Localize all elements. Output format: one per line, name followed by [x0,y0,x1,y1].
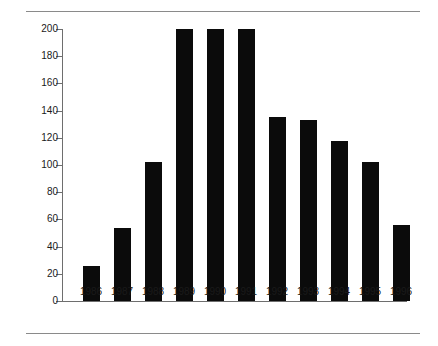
bottom-divider-rule [26,333,420,334]
bar [331,141,348,301]
bar [145,162,162,301]
y-axis-tick: 0 [62,301,68,302]
y-axis-tick-label: 80 [47,185,58,198]
y-axis-tick: 120 [62,138,68,139]
x-axis-line [62,301,407,302]
bar-chart-figure: 020406080100120140160180200 198619871988… [0,0,438,346]
bar [269,117,286,301]
y-axis-tick: 140 [62,111,68,112]
y-axis-tick-label: 40 [47,240,58,253]
bar [207,29,224,301]
y-axis-tick-label: 140 [41,104,58,117]
y-axis-tick: 180 [62,56,68,57]
y-axis-tick: 100 [62,165,68,166]
y-axis-tick: 200 [62,29,68,30]
y-axis-tick-label: 0 [52,294,58,307]
plot-area: 020406080100120140160180200 [62,29,407,301]
y-axis-tick: 80 [62,192,68,193]
bar [238,29,255,301]
y-axis-tick: 60 [62,219,68,220]
y-axis-tick-label: 20 [47,267,58,280]
y-axis-tick-label: 60 [47,212,58,225]
y-axis-tick: 40 [62,247,68,248]
y-axis-tick-label: 180 [41,49,58,62]
y-axis-tick: 20 [62,274,68,275]
x-axis-label: 1996 [381,286,421,298]
y-axis-tick-label: 200 [41,22,58,35]
y-axis-tick-label: 120 [41,131,58,144]
y-axis-tick-label: 100 [41,158,58,171]
bar [176,29,193,301]
top-divider-rule [26,11,420,12]
y-axis-tick-label: 160 [41,76,58,89]
bar [300,120,317,301]
y-axis-tick: 160 [62,83,68,84]
bar [362,162,379,301]
